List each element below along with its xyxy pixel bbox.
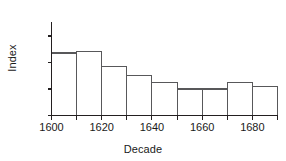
bar (77, 52, 102, 116)
bar (102, 67, 127, 116)
plot-area (0, 0, 286, 161)
bar (152, 83, 177, 116)
bar (177, 89, 202, 116)
bar (202, 89, 227, 116)
bars-group (52, 52, 278, 116)
bar (52, 53, 77, 116)
bar (252, 87, 277, 116)
bar (227, 83, 252, 116)
bar (127, 75, 152, 115)
bar-chart-figure: Index Decade 75100125150 160016201640166… (0, 0, 286, 161)
